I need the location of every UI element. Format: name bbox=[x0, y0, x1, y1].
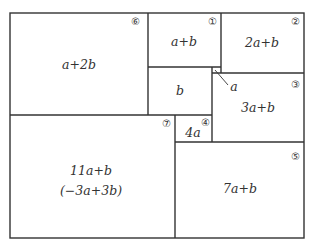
region-b: b bbox=[176, 83, 184, 98]
marker-5: ⑤ bbox=[291, 151, 300, 162]
label-4: 4a bbox=[184, 125, 200, 140]
region-2: ② 2a+b bbox=[244, 16, 299, 50]
marker-7: ⑦ bbox=[162, 118, 171, 129]
label-small-square: a bbox=[230, 79, 237, 94]
region-1: ① a+b bbox=[171, 16, 216, 49]
region-5: ⑤ 7a+b bbox=[223, 151, 299, 196]
label-7: 11a+b bbox=[70, 163, 112, 178]
region-7: ⑦ 11a+b (−3a+3b) bbox=[60, 118, 171, 198]
region-4: ④ 4a bbox=[184, 117, 209, 140]
marker-3: ③ bbox=[291, 79, 300, 90]
marker-2: ② bbox=[291, 16, 300, 27]
region-6: ⑥ a+2b bbox=[62, 16, 139, 72]
label-b: b bbox=[176, 83, 184, 98]
label-3: 3a+b bbox=[241, 100, 275, 115]
marker-1: ① bbox=[208, 16, 217, 27]
sublabel-7: (−3a+3b) bbox=[60, 183, 122, 198]
label-1: a+b bbox=[171, 34, 197, 49]
region-3: ③ 3a+b bbox=[241, 79, 299, 115]
marker-6: ⑥ bbox=[131, 16, 140, 27]
marker-4: ④ bbox=[201, 117, 210, 128]
rectangle-partition-diagram: ⑥ a+2b ① a+b ② 2a+b b a ③ 3a+b ④ 4a ⑦ 11… bbox=[0, 0, 314, 248]
label-6: a+2b bbox=[62, 57, 96, 72]
label-2: 2a+b bbox=[244, 35, 279, 50]
label-5: 7a+b bbox=[223, 181, 257, 196]
